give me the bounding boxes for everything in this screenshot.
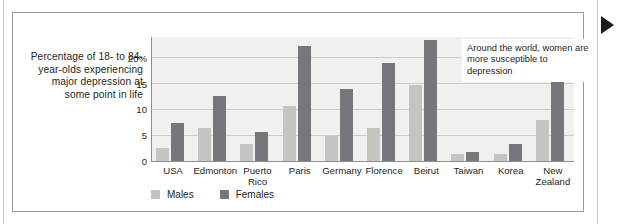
chart-annotation-callout: Around the world, women are more suscept… <box>462 39 594 82</box>
bar-males[interactable] <box>240 144 253 161</box>
bar-males[interactable] <box>494 154 507 161</box>
legend-label-females: Females <box>236 189 274 200</box>
bar-group: Germany <box>321 37 363 161</box>
bar-males[interactable] <box>367 128 380 161</box>
bar-group: Edmonton <box>194 37 236 161</box>
legend-swatch-females <box>220 190 229 199</box>
bar-females[interactable] <box>382 63 395 161</box>
bar-females[interactable] <box>509 144 522 161</box>
bar-males[interactable] <box>409 85 422 161</box>
bar-group: Puerto Rico <box>236 37 278 161</box>
chart-legend: Males Females <box>151 189 274 200</box>
bar-females[interactable] <box>424 40 437 161</box>
bar-group: Paris <box>279 37 321 161</box>
y-axis-tick-label: 20% <box>128 52 147 63</box>
bar-females[interactable] <box>466 152 479 161</box>
bar-males[interactable] <box>536 120 549 161</box>
bar-group: USA <box>152 37 194 161</box>
figure-root: Percentage of 18- to 84-year-olds experi… <box>0 0 618 224</box>
y-axis-tick-label: 5 <box>142 130 147 141</box>
bar-females[interactable] <box>551 78 564 161</box>
y-axis-tick-label: 15 <box>136 78 147 89</box>
bar-females[interactable] <box>298 46 311 161</box>
bar-females[interactable] <box>340 89 353 161</box>
legend-item-males[interactable]: Males <box>151 189 194 200</box>
bar-females[interactable] <box>171 123 184 161</box>
bar-males[interactable] <box>156 148 169 161</box>
bar-males[interactable] <box>198 128 211 161</box>
bar-males[interactable] <box>283 106 296 161</box>
legend-swatch-males <box>151 190 160 199</box>
bar-males[interactable] <box>325 136 338 161</box>
chart-caption: Percentage of 18- to 84-year-olds experi… <box>27 51 143 101</box>
bar-group: Florence <box>363 37 405 161</box>
legend-label-males: Males <box>167 189 194 200</box>
margin-pointer-triangle-icon <box>601 16 614 34</box>
bar-males[interactable] <box>451 154 464 161</box>
page-rule-right <box>597 0 598 224</box>
bar-females[interactable] <box>213 96 226 161</box>
chart-container: Percentage of 18- to 84-year-olds experi… <box>12 12 584 212</box>
bar-group: Beirut <box>405 37 447 161</box>
legend-item-females[interactable]: Females <box>220 189 274 200</box>
y-axis-tick-label: 10 <box>136 104 147 115</box>
page-rule-left <box>3 0 4 224</box>
x-axis-category-label: New Zealand <box>522 165 584 187</box>
bar-females[interactable] <box>255 132 268 161</box>
